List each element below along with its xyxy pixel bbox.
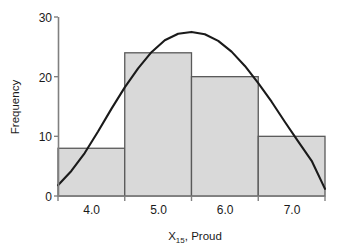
- histogram-figure: 30 20 10 0 4.0 5.0 6.0 7.0 Frequency X15…: [0, 0, 343, 249]
- x-tick-label-4: 4.0: [83, 203, 100, 217]
- histogram-chart: 30 20 10 0 4.0 5.0 6.0 7.0 Frequency X15…: [0, 0, 343, 249]
- y-tick-label-30: 30: [39, 11, 53, 25]
- x-tick-label-7: 7.0: [284, 203, 301, 217]
- x-axis-title: X15, Proud: [168, 230, 222, 245]
- histogram-bar: [192, 77, 259, 196]
- y-tick-label-0: 0: [45, 190, 52, 204]
- x-tick-label-6: 6.0: [217, 203, 234, 217]
- histogram-bar: [58, 148, 125, 196]
- x-tick-label-5: 5.0: [150, 203, 167, 217]
- y-tick-label-20: 20: [39, 71, 53, 85]
- y-tick-label-10: 10: [39, 130, 53, 144]
- y-axis-title: Frequency: [9, 80, 21, 135]
- x-axis-title-rest: , Proud: [185, 230, 222, 242]
